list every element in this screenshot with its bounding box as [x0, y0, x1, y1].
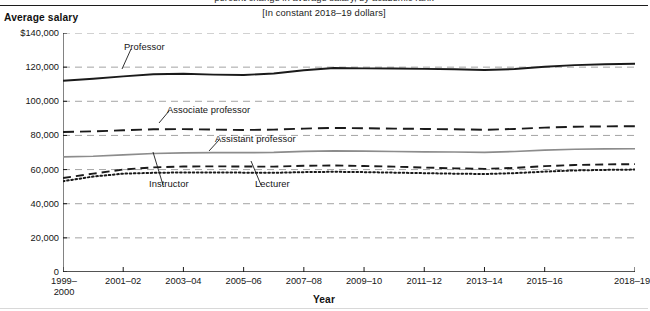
data-series-group: [63, 64, 635, 181]
x-axis-tick-label: 2013–14: [466, 276, 502, 287]
chart-plot-area: [63, 33, 635, 272]
y-axis-tick-label: 60,000: [3, 165, 59, 175]
y-axis-tick-labels: 020,00040,00060,00080,000100,000120,000$…: [0, 0, 59, 311]
series-line-associate-professor: [63, 126, 635, 132]
series-label-instructor: Instructor: [149, 178, 189, 189]
y-axis-tick-label: 100,000: [3, 96, 59, 106]
x-axis-tick-label: 2018–19: [614, 276, 650, 287]
label-leader-lines: [122, 49, 261, 185]
series-line-professor: [63, 64, 635, 81]
y-axis-tick-label: $140,000: [3, 28, 59, 38]
x-axis-title: Year: [0, 294, 648, 305]
clipped-figure-title: percent change in average salary, by aca…: [0, 0, 648, 3]
x-axis-tick-label: 2001–02: [105, 276, 141, 287]
x-axis-tick-label: 2009–10: [346, 276, 382, 287]
figure-subtitle: [In constant 2018–19 dollars]: [0, 7, 648, 18]
y-axis-tick-label: 20,000: [3, 233, 59, 243]
y-axis-tick-label: 40,000: [3, 199, 59, 209]
series-line-assistant-professor: [63, 149, 635, 157]
series-label-professor: Professor: [124, 41, 165, 52]
header-rule: [0, 5, 648, 6]
x-axis-tick-label: 2011–12: [406, 276, 442, 287]
x-axis-tick-label: 2003–04: [165, 276, 201, 287]
x-axis-tick-label: 2005–06: [226, 276, 262, 287]
y-axis-tick-label: 80,000: [3, 130, 59, 140]
series-label-lecturer: Lecturer: [255, 178, 290, 189]
x-axis-tick-label: 2015–16: [527, 276, 563, 287]
series-label-associate-professor: Associate professor: [167, 104, 250, 115]
chart-svg: [63, 33, 635, 272]
series-label-assistant-professor: Assistant professor: [215, 133, 296, 144]
leader-line-professor: [122, 49, 131, 69]
x-axis-tick-marks: [63, 267, 635, 272]
y-axis-tick-label: 120,000: [3, 62, 59, 72]
footer-rule: [0, 308, 648, 309]
x-axis-tick-label: 2007–08: [286, 276, 322, 287]
